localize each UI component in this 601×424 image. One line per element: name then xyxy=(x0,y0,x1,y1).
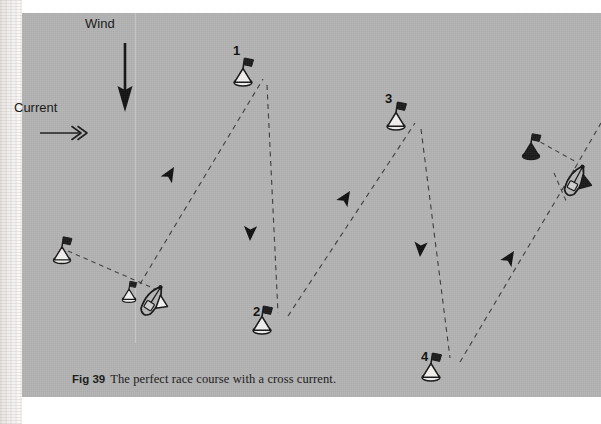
arrow-leg-1-to-2 xyxy=(243,226,257,241)
start-line-group xyxy=(53,237,175,323)
arrow-leg-3-to-4 xyxy=(413,242,427,258)
mark-3-buoy[interactable] xyxy=(387,102,407,130)
start-line-inner-buoy[interactable] xyxy=(122,281,137,302)
figure-page: Wind Current 1 2 3 4 Fig 39The perfect r… xyxy=(0,0,601,424)
race-course-diagram xyxy=(22,13,601,397)
finish-line-segment xyxy=(533,138,578,163)
leg-mark-1-to-mark-2 xyxy=(267,85,278,313)
figure-caption-text: The perfect race course with a cross cur… xyxy=(110,372,336,386)
finish-line-boat[interactable] xyxy=(562,162,598,203)
figure-caption: Fig 39The perfect race course with a cro… xyxy=(72,372,336,387)
course-marks xyxy=(234,58,442,381)
start-line-segment xyxy=(68,251,162,292)
arrow-leg-2-to-3 xyxy=(336,187,355,207)
course-path xyxy=(140,79,601,362)
start-line xyxy=(68,251,162,292)
arrow-leg-start-to-1 xyxy=(161,164,180,184)
leg-mark-4-to-finish xyxy=(460,168,575,362)
figure-number: Fig 39 xyxy=(72,373,105,385)
leg-mark-3-to-mark-4 xyxy=(421,129,450,358)
finish-line-buoy[interactable] xyxy=(522,134,541,160)
finish-exit-extension xyxy=(575,123,601,168)
start-line-boat[interactable] xyxy=(138,282,175,323)
finish-line-group xyxy=(522,134,598,203)
leg-start-to-mark-1 xyxy=(140,79,263,284)
wind-label: Wind xyxy=(85,17,115,30)
current-label: Current xyxy=(14,101,57,114)
leg-direction-arrows xyxy=(161,164,520,268)
scanned-page-edge xyxy=(0,0,22,424)
mark-1-buoy[interactable] xyxy=(234,58,254,86)
mark-4-label: 4 xyxy=(421,350,428,363)
arrow-leg-4-to-finish xyxy=(500,247,519,267)
current-arrow xyxy=(40,127,87,140)
leg-mark-2-to-mark-3 xyxy=(288,123,415,316)
figure-panel xyxy=(22,13,601,397)
wind-arrow xyxy=(118,43,133,112)
mark-2-label: 2 xyxy=(253,305,260,318)
start-line-pin-buoy[interactable] xyxy=(53,237,72,264)
mark-3-label: 3 xyxy=(385,92,392,105)
mark-1-label: 1 xyxy=(233,44,240,57)
